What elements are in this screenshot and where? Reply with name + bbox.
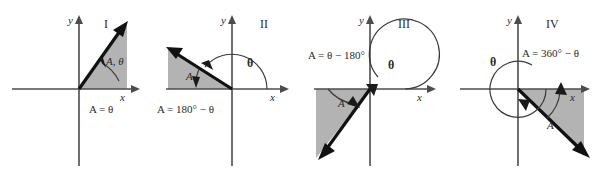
quadrant-2-x-axis-label: x: [269, 91, 275, 103]
quadrant-4-x-axis-label: x: [569, 91, 575, 103]
quadrant-4-theta-label: θ: [490, 55, 496, 69]
quadrant-2-y-axis-arrowhead: [228, 15, 236, 24]
quadrant-1-diagram: x y I A, θ A = θ: [0, 0, 152, 169]
quadrant-angle-figure: x y I A, θ A = θ x y II θ A A = 180° − θ: [0, 0, 609, 169]
quadrant-1-roman-numeral: I: [104, 17, 108, 31]
quadrant-2-reference-label: A: [185, 70, 193, 82]
quadrant-3-roman-numeral: III: [398, 17, 410, 31]
quadrant-2-x-axis-arrowhead: [280, 85, 289, 93]
quadrant-1-y-axis-label: y: [67, 14, 73, 26]
quadrant-2-equation: A = 180° − θ: [157, 103, 214, 115]
quadrant-3-x-axis-arrowhead: [427, 85, 436, 93]
quadrant-3-diagram: x y III θ A A = θ − 180°: [300, 0, 450, 169]
quadrant-1-angle-label: A, θ: [105, 55, 124, 67]
quadrant-1-y-axis-arrowhead: [75, 15, 83, 24]
quadrant-3-y-axis-arrowhead: [366, 15, 374, 24]
quadrant-4-theta-arc-arrowhead: [518, 99, 530, 111]
quadrant-1-x-axis-arrowhead: [131, 85, 140, 93]
quadrant-2-theta-label: θ: [247, 56, 253, 70]
quadrant-2-y-axis-label: y: [220, 14, 226, 26]
quadrant-4-y-axis-label: y: [506, 14, 512, 26]
quadrant-4-diagram: x y IV θ A A = 360° − θ: [450, 0, 609, 169]
quadrant-3-theta-label: θ: [388, 58, 394, 72]
quadrant-3-x-axis-label: x: [416, 91, 422, 103]
quadrant-4-reference-label: A: [546, 119, 554, 131]
quadrant-1-equation: A = θ: [89, 103, 113, 115]
quadrant-1-x-axis-label: x: [119, 91, 125, 103]
quadrant-2-diagram: x y II θ A A = 180° − θ: [152, 0, 300, 169]
quadrant-3-y-axis-label: y: [358, 14, 364, 26]
quadrant-4-equation: A = 360° − θ: [522, 47, 579, 59]
quadrant-4-x-axis-arrowhead: [581, 85, 590, 93]
quadrant-3-reference-label: A: [337, 97, 345, 109]
quadrant-4-roman-numeral: IV: [546, 17, 559, 31]
quadrant-3-equation: A = θ − 180°: [308, 49, 365, 61]
quadrant-4-y-axis-arrowhead: [514, 15, 522, 24]
quadrant-2-roman-numeral: II: [260, 17, 268, 31]
